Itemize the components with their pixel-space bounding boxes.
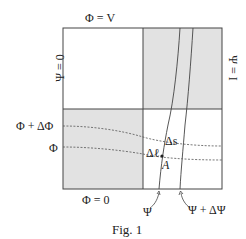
label-bottom-boundary: Φ = 0 — [82, 194, 110, 206]
figure-caption: Fig. 1 — [112, 223, 142, 236]
label-delta-s: Δs — [165, 135, 177, 147]
label-streamline-psi: Ψ — [143, 206, 152, 218]
label-delta-l: Δℓ — [146, 147, 159, 159]
label-equipotential-upper: Φ + ΔΦ — [16, 120, 53, 132]
label-right-boundary: Ψ = I — [227, 48, 239, 88]
shaded-region-top-right — [143, 28, 222, 109]
label-top-boundary: Φ = V — [85, 12, 115, 24]
label-point-a: A — [162, 159, 169, 171]
label-left-boundary: Ψ = 0 — [54, 48, 66, 88]
label-streamline-psi-plus-dpsi: Ψ + ΔΨ — [188, 204, 226, 216]
label-equipotential-lower: Φ — [49, 142, 58, 154]
